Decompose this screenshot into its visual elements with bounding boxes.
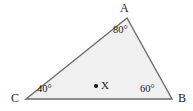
triangle-figure	[0, 0, 193, 111]
vertex-label-a: A	[120, 2, 129, 14]
angle-label-a: 80°	[113, 25, 128, 36]
interior-point-marker	[94, 84, 98, 88]
angle-label-b: 60°	[140, 84, 155, 95]
interior-point-label: X	[101, 80, 109, 91]
geometry-diagram: A B C 80° 60° 40° X	[0, 0, 193, 111]
vertex-label-b: B	[178, 92, 186, 104]
vertex-label-c: C	[11, 92, 19, 104]
angle-label-c: 40°	[37, 84, 52, 95]
